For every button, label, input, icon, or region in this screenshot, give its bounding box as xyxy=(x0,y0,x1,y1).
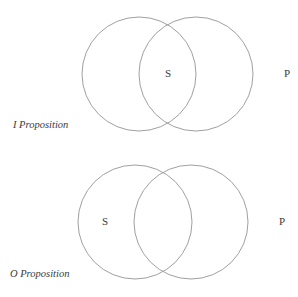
diagram-caption: I Proposition xyxy=(12,119,68,130)
subject-circle xyxy=(78,165,192,279)
subject-label: S xyxy=(165,67,171,79)
predicate-circle xyxy=(134,165,248,279)
subject-label: S xyxy=(102,215,108,227)
predicate-label: P xyxy=(279,215,285,227)
o-proposition-diagram: S P O Proposition xyxy=(10,165,285,279)
venn-diagrams-canvas: S P I Proposition S P O Proposition xyxy=(0,0,298,297)
diagram-caption: O Proposition xyxy=(10,268,69,279)
predicate-label: P xyxy=(284,67,290,79)
i-proposition-diagram: S P I Proposition xyxy=(12,17,290,131)
